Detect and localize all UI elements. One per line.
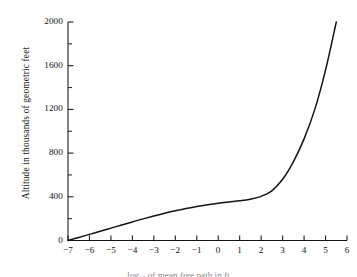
x-tick-label: −5 — [99, 245, 123, 255]
x-tick-label: −3 — [142, 245, 166, 255]
x-tick-label: −1 — [185, 245, 209, 255]
data-curve — [68, 22, 336, 241]
y-tick-label: 1600 — [44, 60, 63, 70]
y-tick-label: 800 — [49, 147, 63, 157]
plot-area — [0, 0, 357, 277]
x-tick-marks — [68, 236, 347, 241]
x-tick-label: 2 — [249, 245, 273, 255]
x-tick-label: 3 — [271, 245, 295, 255]
x-tick-label: −7 — [56, 245, 80, 255]
figure-container: Altitude in thousands of geometric feet … — [0, 0, 357, 277]
x-tick-label: 6 — [335, 245, 357, 255]
x-tick-label: −6 — [77, 245, 101, 255]
x-tick-label: 1 — [228, 245, 252, 255]
x-tick-label: 5 — [314, 245, 338, 255]
x-axis-title: log₁₀ of mean free path in ft — [0, 270, 357, 277]
y-tick-label: 2000 — [44, 16, 63, 26]
chart-svg — [0, 0, 357, 277]
x-tick-label: −4 — [120, 245, 144, 255]
x-tick-label: −2 — [163, 245, 187, 255]
x-tick-label: 4 — [292, 245, 316, 255]
x-tick-label: 0 — [206, 245, 230, 255]
y-tick-label: 0 — [58, 235, 63, 245]
y-tick-marks — [68, 22, 74, 241]
y-tick-label: 400 — [49, 191, 63, 201]
y-tick-label: 1200 — [44, 103, 63, 113]
